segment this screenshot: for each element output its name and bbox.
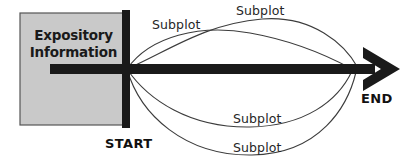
- subplot-label-upper-left: Subplot: [152, 17, 200, 32]
- start-label: START: [105, 136, 153, 151]
- subplot-arc-upper-left: [127, 30, 352, 69]
- subplot-label-lower-inner: Subplot: [233, 111, 281, 126]
- expository-line-1: Expository: [34, 27, 113, 44]
- expository-line-2: Information: [30, 44, 117, 61]
- expository-information-label: Expository Information: [20, 13, 127, 125]
- subplot-label-upper-right: Subplot: [236, 3, 284, 18]
- story-structure-diagram: Expository Information Subplot Subplot S…: [0, 0, 416, 165]
- subplot-label-lower-outer: Subplot: [233, 140, 281, 155]
- end-label: END: [361, 91, 393, 106]
